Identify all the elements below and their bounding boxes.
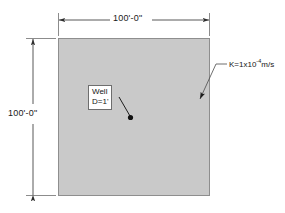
well-marker-dot — [128, 115, 133, 120]
well-callout-diameter: D=1' — [92, 97, 108, 107]
dimension-label-left: 100'-0" — [8, 108, 37, 118]
well-callout-title: Well — [92, 87, 108, 97]
conductivity-annotation: K=1x10-4m/s — [229, 60, 274, 69]
conductivity-units: m/s — [261, 60, 274, 69]
dimension-label-top: 100'-0" — [113, 13, 142, 23]
diagram-vector-layer — [0, 0, 285, 213]
soil-domain-rect — [59, 39, 210, 196]
well-callout-box: Well D=1' — [88, 85, 112, 110]
diagram-canvas: 100'-0" 100'-0" Well D=1' K=1x10-4m/s — [0, 0, 285, 213]
conductivity-prefix: K=1x10 — [229, 60, 256, 69]
